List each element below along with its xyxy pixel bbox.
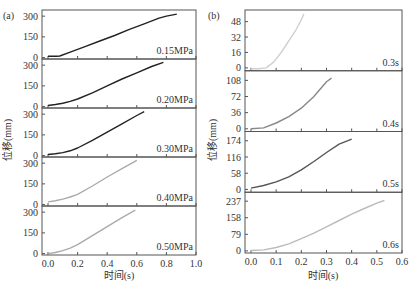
- data-line: [251, 14, 304, 69]
- panel-0.6s: 0791582370.6s: [226, 192, 402, 256]
- x-tick-label: 0.2: [295, 256, 308, 267]
- x-tick-label: 0.6: [131, 258, 144, 269]
- panel-frame: [245, 71, 402, 132]
- chart-a-pressure-panels: 01503000.15MPa01503000.20MPa01503000.30M…: [23, 10, 202, 269]
- x-tick-label: 0.0: [245, 256, 258, 267]
- panel-condition-label: 0.5s: [383, 178, 400, 189]
- x-tick-label: 0.1: [270, 256, 283, 267]
- panel-condition-label: 0.40MPa: [157, 192, 194, 203]
- x-tick-label: 0.3: [320, 256, 333, 267]
- panel-0.20MPa: 01503000.20MPa: [23, 59, 196, 112]
- panel-0.40MPa: 01503000.40MPa: [23, 157, 196, 210]
- data-line: [251, 201, 384, 251]
- y-tick-label: 58: [231, 168, 241, 179]
- x-tick-label: 0.4: [101, 258, 114, 269]
- subfigure-label-a: (a): [3, 10, 14, 22]
- y-tick-label: 300: [23, 60, 38, 71]
- y-tick-label: 150: [23, 80, 38, 91]
- panel-frame: [245, 192, 402, 253]
- y-tick-label: 36: [231, 107, 241, 118]
- panel-frame: [245, 10, 402, 71]
- x-tick-label: 0.8: [160, 258, 173, 269]
- figure-canvas: 01503000.15MPa01503000.20MPa01503000.30M…: [0, 0, 409, 283]
- y-tick-label: 0: [236, 62, 241, 73]
- x-tick-label: 0.0: [42, 258, 55, 269]
- x-axis-title-left: 时间(s): [104, 269, 135, 282]
- y-tick-label: 79: [231, 229, 241, 240]
- y-tick-label: 72: [231, 91, 241, 102]
- data-line: [48, 210, 135, 254]
- x-axis-title-right: 时间(s): [308, 269, 339, 282]
- panel-condition-label: 0.4s: [383, 118, 400, 129]
- y-tick-label: 116: [226, 152, 241, 163]
- y-tick-label: 150: [23, 31, 38, 42]
- panel-condition-label: 0.3s: [383, 57, 400, 68]
- panel-0.50MPa: 01503000.50MPa: [23, 206, 196, 259]
- y-tick-label: 300: [23, 207, 38, 218]
- y-tick-label: 300: [23, 158, 38, 169]
- panel-0.15MPa: 01503000.15MPa: [23, 10, 196, 63]
- y-tick-label: 0: [236, 184, 241, 195]
- y-tick-label: 150: [23, 178, 38, 189]
- panel-condition-label: 0.15MPa: [157, 45, 194, 56]
- panel-0.30MPa: 01503000.30MPa: [23, 108, 196, 161]
- y-tick-label: 174: [226, 135, 241, 146]
- panel-0.4s: 036721080.4s: [226, 71, 402, 135]
- panel-condition-label: 0.50MPa: [157, 241, 194, 252]
- y-tick-label: 158: [226, 212, 241, 223]
- y-axis-title-right: 位移(mm): [206, 119, 219, 161]
- y-axis-title-left: 位移(mm): [1, 119, 14, 161]
- data-line: [48, 62, 163, 105]
- y-tick-label: 16: [231, 47, 241, 58]
- y-tick-label: 32: [231, 32, 241, 43]
- y-tick-label: 108: [226, 75, 241, 86]
- y-tick-label: 48: [231, 16, 241, 27]
- data-line: [251, 78, 332, 129]
- x-tick-label: 0.6: [396, 256, 409, 267]
- chart-b-time-panels: 01632480.3s036721080.4s0581161740.5s0791…: [226, 10, 408, 267]
- y-tick-label: 150: [23, 129, 38, 140]
- y-tick-label: 0: [33, 248, 38, 259]
- data-line: [48, 160, 137, 202]
- y-tick-label: 300: [23, 11, 38, 22]
- x-tick-label: 0.4: [345, 256, 358, 267]
- x-tick-label: 0.2: [71, 258, 84, 269]
- x-tick-label: 0.5: [371, 256, 384, 267]
- panel-0.5s: 0581161740.5s: [226, 132, 402, 195]
- panel-condition-label: 0.20MPa: [157, 94, 194, 105]
- x-tick-label: 1.0: [190, 258, 203, 269]
- panel-0.3s: 01632480.3s: [231, 10, 402, 73]
- panel-condition-label: 0.30MPa: [157, 143, 194, 154]
- y-tick-label: 0: [236, 245, 241, 256]
- y-tick-label: 300: [23, 109, 38, 120]
- panel-frame: [245, 132, 402, 193]
- data-line: [251, 139, 352, 188]
- panel-condition-label: 0.6s: [383, 239, 400, 250]
- y-tick-label: 0: [236, 123, 241, 134]
- y-tick-label: 237: [226, 196, 241, 207]
- subfigure-label-b: (b): [208, 10, 220, 22]
- y-tick-label: 150: [23, 227, 38, 238]
- data-line: [48, 112, 144, 155]
